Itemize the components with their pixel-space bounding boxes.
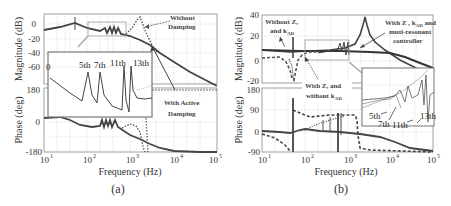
with-all-mag xyxy=(262,50,433,68)
svg-text:10: 10 xyxy=(301,155,311,165)
a-mag-tick-0: 0 xyxy=(32,19,37,29)
a-phase-tick-0: 180 xyxy=(27,85,41,95)
annotation-without-z-kad-2: and kAD xyxy=(270,27,295,36)
svg-text:10: 10 xyxy=(170,155,180,165)
annotation-with-z-without-kad-1: With Z, and xyxy=(305,82,341,90)
svg-text:2: 2 xyxy=(93,153,96,159)
annotation-without-damping-2: Damping xyxy=(168,23,196,31)
a-xlabel: Frequency (Hz) xyxy=(98,166,161,178)
a-x-ticks: 10 1 10 2 10 3 10 4 10 5 xyxy=(40,153,222,165)
b-mag-tick-1: 20 xyxy=(250,31,260,41)
a-mag-tick-2: -40 xyxy=(28,48,40,58)
a-mag-tick-1: -20 xyxy=(28,34,40,44)
bode-figure: Without Damping With Active Damping 0 5t… xyxy=(0,0,451,206)
svg-text:2: 2 xyxy=(311,153,314,159)
b-xlabel: Frequency (Hz) xyxy=(314,166,377,178)
svg-text:5: 5 xyxy=(437,153,440,159)
annotation-with-all-3: controller xyxy=(393,37,422,45)
b-mag-tick-2: 0 xyxy=(255,56,260,66)
svg-text:5: 5 xyxy=(219,153,222,159)
svg-text:10: 10 xyxy=(258,155,268,165)
annotation-without-damping-1: Without xyxy=(170,14,195,22)
svg-text:1: 1 xyxy=(268,153,271,159)
with-z-without-kad-mag xyxy=(262,52,320,80)
inset-label-11th: 11th xyxy=(110,58,126,68)
svg-text:10: 10 xyxy=(427,155,437,165)
phase-dotted xyxy=(305,116,345,130)
b-inset-label-7th: 7th xyxy=(378,119,390,129)
a-phase-tick-1: 0 xyxy=(36,117,41,127)
svg-text:4: 4 xyxy=(180,153,183,159)
b-x-ticks: 10 1 10 2 10 3 10 4 10 5 xyxy=(258,153,440,165)
caption-a: (a) xyxy=(111,182,124,196)
annotation-without-z-kad-1: Without Z, xyxy=(265,18,298,26)
svg-text:4: 4 xyxy=(396,153,399,159)
svg-text:10: 10 xyxy=(83,155,93,165)
b-mag-tick-0: 40 xyxy=(250,10,260,20)
svg-text:10: 10 xyxy=(344,155,354,165)
svg-text:10: 10 xyxy=(126,155,136,165)
b-ylabel-phase: Phase (deg) xyxy=(233,97,245,144)
svg-text:3: 3 xyxy=(136,153,139,159)
panel-a-inset: 0 5th 7th 11th 13th xyxy=(46,52,152,117)
b-phase-tick-2: 0 xyxy=(255,127,260,137)
b-ylabel-magnitude: Magnitude (dB) xyxy=(233,17,245,81)
b-phase-tick-0: 180 xyxy=(247,85,261,95)
panel-b-inset: 5th 7th 11th 13th xyxy=(362,68,437,130)
inset-label-7th: 7th xyxy=(94,60,106,70)
annotation-with-active-damping-2: Damping xyxy=(168,110,196,118)
b-phase-tick-1: 90 xyxy=(250,105,260,115)
b-inset-label-11th: 11th xyxy=(392,120,408,130)
svg-text:3: 3 xyxy=(354,153,357,159)
without-damping-phase xyxy=(122,124,145,152)
inset-label-13th: 13th xyxy=(133,58,150,68)
b-inset-label-13th: 13th xyxy=(420,111,437,121)
a-ylabel-magnitude: Magnitude (dB) xyxy=(13,17,25,81)
a-mag-tick-3: -60 xyxy=(28,62,40,72)
phase-solid xyxy=(262,129,433,151)
svg-text:10: 10 xyxy=(386,155,396,165)
inset-label-5th: 5th xyxy=(79,60,91,70)
svg-text:10: 10 xyxy=(209,155,219,165)
annotation-with-all-1: With Z , kAD and xyxy=(385,19,436,28)
inset-tick-label: 0 xyxy=(46,62,51,72)
panel-a: Without Damping With Active Damping 0 5t… xyxy=(13,14,222,196)
annotation-with-active-damping-1: With Active xyxy=(164,99,199,107)
caption-b: (b) xyxy=(334,182,348,196)
svg-text:10: 10 xyxy=(40,155,50,165)
panel-b: Without Z, and kAD With Z, and without k… xyxy=(233,10,440,196)
annotation-with-all-2: muti-resonant xyxy=(389,28,432,36)
svg-text:1: 1 xyxy=(50,153,53,159)
a-ylabel-phase: Phase (deg) xyxy=(13,97,25,144)
